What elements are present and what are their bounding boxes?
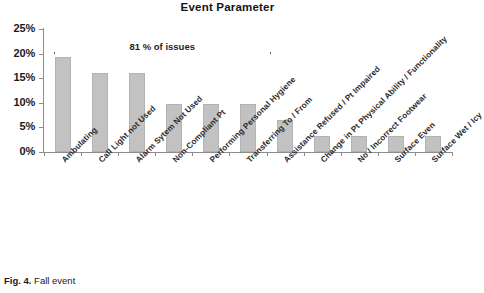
chart-title: Event Parameter xyxy=(0,1,455,13)
bar xyxy=(92,73,108,152)
x-tick-mark xyxy=(81,152,82,156)
caption-number: Fig. 4. xyxy=(4,275,31,286)
x-tick-mark xyxy=(44,152,45,156)
caption-text: Fall event xyxy=(34,275,75,286)
y-tick-label: 25% xyxy=(14,22,35,34)
x-tick-mark xyxy=(155,152,156,156)
x-tick-mark xyxy=(304,152,305,156)
x-tick-mark xyxy=(415,152,416,156)
bar xyxy=(55,57,71,152)
y-tick-label: 15% xyxy=(14,71,35,83)
y-tick-label: 5% xyxy=(20,120,36,132)
y-tick-label: 0% xyxy=(20,145,36,157)
x-tick-mark xyxy=(378,152,379,156)
x-tick-mark xyxy=(452,152,453,156)
x-tick-mark xyxy=(118,152,119,156)
x-tick-mark xyxy=(341,152,342,156)
figure-caption: Fig. 4. Fall event xyxy=(4,275,75,286)
x-tick-mark xyxy=(229,152,230,156)
x-tick-mark xyxy=(267,152,268,156)
y-tick-label: 10% xyxy=(14,96,35,108)
y-tick-label: 20% xyxy=(14,47,35,59)
bracket-annotation-label: 81 % of issues xyxy=(54,41,271,52)
x-tick-mark xyxy=(192,152,193,156)
